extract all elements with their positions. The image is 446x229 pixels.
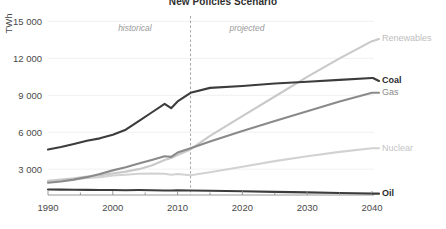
x-axis-tick-labels: 199020002010202020302040 xyxy=(37,202,382,213)
x-tick-label: 2040 xyxy=(361,202,382,213)
y-tick-label: 12 000 xyxy=(13,53,42,64)
annotation-projected: projected xyxy=(228,23,264,33)
series-line-renewables xyxy=(48,41,372,181)
series-line-coal xyxy=(48,78,372,149)
x-tick-label: 2030 xyxy=(297,202,318,213)
y-axis-tick-labels: 3 0006 0009 00012 00015 000 xyxy=(13,16,42,175)
y-tick-label: 6 000 xyxy=(18,127,42,138)
series-label-nuclear: Nuclear xyxy=(382,143,413,153)
y-tick-label: 3 000 xyxy=(18,164,42,175)
y-tick-label: 15 000 xyxy=(13,16,42,27)
data-series xyxy=(48,41,372,194)
x-tick-label: 2000 xyxy=(102,202,123,213)
x-tick-label: 1990 xyxy=(37,202,58,213)
x-tick-label: 2020 xyxy=(232,202,253,213)
series-label-renewables: Renewables xyxy=(382,33,432,43)
x-tick-label: 2010 xyxy=(167,202,188,213)
series-label-oil: Oil xyxy=(382,188,394,198)
legend-connector-renewables xyxy=(373,39,379,41)
energy-generation-chart: New Policies Scenario TWh 3 0006 0009 00… xyxy=(0,0,446,229)
y-tick-label: 9 000 xyxy=(18,90,42,101)
series-label-coal: Coal xyxy=(382,75,402,85)
series-inline-legend: RenewablesCoalGasNuclearOil xyxy=(373,33,432,198)
series-label-gas: Gas xyxy=(382,87,399,97)
legend-connector-coal xyxy=(373,78,379,81)
phase-annotations: historicalprojected xyxy=(118,23,265,33)
chart-plot-area: 3 0006 0009 00012 00015 000 199020002010… xyxy=(0,0,446,229)
gridlines xyxy=(48,21,374,169)
series-line-nuclear xyxy=(48,148,372,182)
annotation-historical: historical xyxy=(118,23,153,33)
